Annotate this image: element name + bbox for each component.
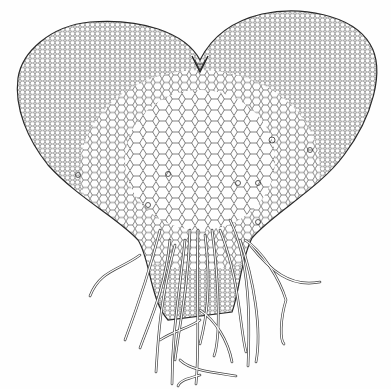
prothallus-drawing	[0, 0, 391, 389]
illustration-canvas	[0, 0, 391, 389]
